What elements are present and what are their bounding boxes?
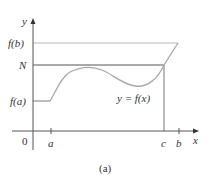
- ivt-diagram: y f(b) N f(a) 0 a c b x y = f(x) (a): [0, 0, 214, 184]
- origin-label: 0: [22, 135, 28, 147]
- x-axis-label: x: [192, 134, 198, 146]
- a-label: a: [48, 137, 54, 149]
- b-label: b: [176, 137, 182, 149]
- x-axis-arrow-icon: [193, 129, 199, 134]
- curve-label: y = f(x): [116, 92, 150, 105]
- n-label: N: [18, 59, 27, 71]
- y-axis-label: y: [21, 15, 27, 27]
- fa-label: f(a): [10, 95, 26, 108]
- fb-label: f(b): [8, 37, 24, 50]
- c-label: c: [161, 137, 166, 149]
- figure-caption: (a): [99, 162, 112, 175]
- y-axis-arrow-icon: [31, 18, 36, 24]
- function-curve: [33, 43, 178, 101]
